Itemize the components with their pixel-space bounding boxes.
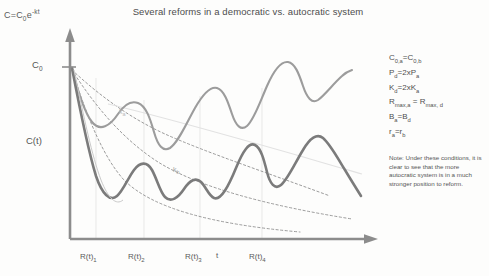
grid-lines [96, 78, 262, 238]
condition-row: Kd=2xKa [389, 82, 487, 97]
y-axis-c0-label: C0 [32, 59, 43, 72]
condition-row: Rmax,a = Rmax, d [389, 96, 487, 111]
x-tick-label-2: R(t)2 [128, 252, 145, 263]
condition-row: Ba=Bd [389, 111, 487, 126]
diagram-canvas: C=C0e-kt Several reforms in a democratic… [0, 0, 489, 276]
x-axis-symbol: t [216, 251, 218, 260]
page-title: Several reforms in a democratic vs. auto… [118, 6, 378, 17]
condition-row: Pd=2xPa [389, 67, 487, 82]
condition-row: ra=rb [389, 126, 487, 141]
x-tick-label-3: R(t)3 [185, 252, 202, 263]
condition-row: C0,a=C0,b [389, 52, 487, 67]
y-axis-label: C(t) [26, 135, 42, 146]
explanatory-note: Note: Under these conditions, it is clea… [389, 154, 485, 188]
curve-label-ka: ka [119, 108, 126, 117]
x-axis-arrowhead [364, 234, 378, 244]
x-tick-label-4: R(t)4 [249, 252, 266, 263]
decay-equation: C=C0e-kt [4, 8, 40, 22]
x-tick-label-1: R(t)1 [80, 252, 97, 263]
y-axis-arrowhead [65, 28, 75, 42]
envelope-curves [72, 70, 352, 232]
conditions-list: C0,a=C0,b Pd=2xPa Kd=2xKa Rmax,a = Rmax,… [389, 52, 487, 141]
curve-label-kb: kb [173, 166, 180, 175]
